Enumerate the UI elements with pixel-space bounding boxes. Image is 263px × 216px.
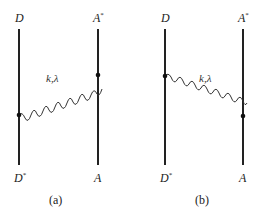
vertex-dot [163,74,168,79]
label-top-right: A* [237,11,249,25]
label-bottom-left: D* [13,171,27,185]
panel-b: k,λ D A* D* A (b) [159,11,249,207]
label-bottom-right: A [93,171,102,185]
label-top-left: D [14,11,24,25]
label-bottom-left: D* [159,171,173,185]
vertex-dot [96,73,101,78]
label-top-left: D [160,11,170,25]
label-bottom-right: A [238,171,247,185]
caption-a: (a) [49,193,62,207]
photon-label: k,λ [199,72,212,84]
vertex-dot [17,113,22,118]
vertex-dot [241,114,246,119]
photon-wavy-line [19,89,102,120]
panel-a: k,λ D A* D* A (a) [13,11,104,207]
feynman-diagrams: k,λ D A* D* A (a) k,λ D A* D* A (b) [0,0,263,216]
photon-label: k,λ [46,72,59,84]
caption-b: (b) [195,193,209,207]
label-top-right: A* [92,11,104,25]
